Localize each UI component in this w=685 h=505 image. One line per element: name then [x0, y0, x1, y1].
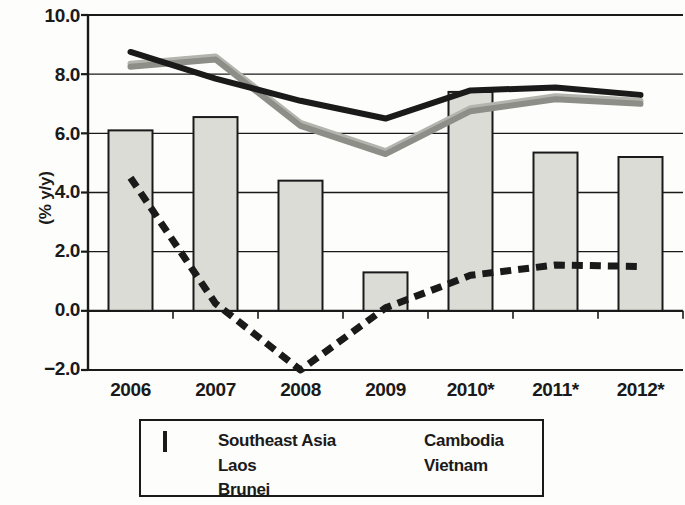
plot-area: [0, 0, 685, 400]
legend-item-vietnam: Vietnam: [369, 455, 488, 477]
black-solid-line-icon: [163, 458, 209, 474]
medium-gray-line-icon: [369, 458, 415, 474]
chart-container: (% y/y) 10.0 8.0 6.0 4.0 2.0 0.0 −2.0 20…: [0, 0, 685, 505]
x-tick-label: 2006: [86, 379, 176, 401]
bar-swatch-icon: [163, 433, 209, 449]
black-dashed-line-icon: [163, 482, 209, 498]
legend-item-southeast-asia: Southeast Asia: [163, 430, 336, 452]
x-tick-label: 2008: [256, 379, 346, 401]
chart-legend: Southeast Asia Cambodia Laos Vietnam Bru…: [139, 419, 544, 497]
x-tick-label: 2009: [341, 379, 431, 401]
bar-series-southeast-asia: [109, 92, 663, 311]
x-tick-label: 2011*: [511, 379, 601, 401]
legend-label: Brunei: [218, 480, 270, 500]
legend-label: Cambodia: [424, 431, 504, 451]
x-tick-label: 2007: [171, 379, 261, 401]
light-gray-line-icon: [369, 433, 415, 449]
x-tick-label: 2012*: [596, 379, 685, 401]
legend-label: Vietnam: [424, 456, 488, 476]
legend-item-brunei: Brunei: [163, 479, 270, 501]
legend-label: Laos: [218, 456, 256, 476]
x-tick-label: 2010*: [426, 379, 516, 401]
legend-item-laos: Laos: [163, 455, 256, 477]
gridlines: [81, 15, 683, 370]
legend-item-cambodia: Cambodia: [369, 430, 504, 452]
legend-label: Southeast Asia: [218, 431, 336, 451]
